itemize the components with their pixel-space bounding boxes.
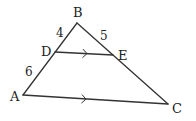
vertex-label-c: C — [172, 101, 182, 116]
side-ab — [23, 23, 77, 95]
vertex-label-a: A — [9, 89, 20, 104]
vertex-label-b: B — [73, 5, 83, 20]
side-bc — [77, 23, 168, 104]
length-label-ad: 6 — [25, 65, 33, 79]
point-label-e: E — [118, 48, 128, 63]
side-ac — [23, 95, 168, 104]
length-label-be: 5 — [100, 29, 108, 43]
segment-de — [55, 52, 113, 55]
triangle-diagram: A B C D E 4 5 6 — [0, 0, 196, 121]
point-label-d: D — [41, 44, 51, 59]
length-label-bd: 4 — [56, 26, 64, 40]
